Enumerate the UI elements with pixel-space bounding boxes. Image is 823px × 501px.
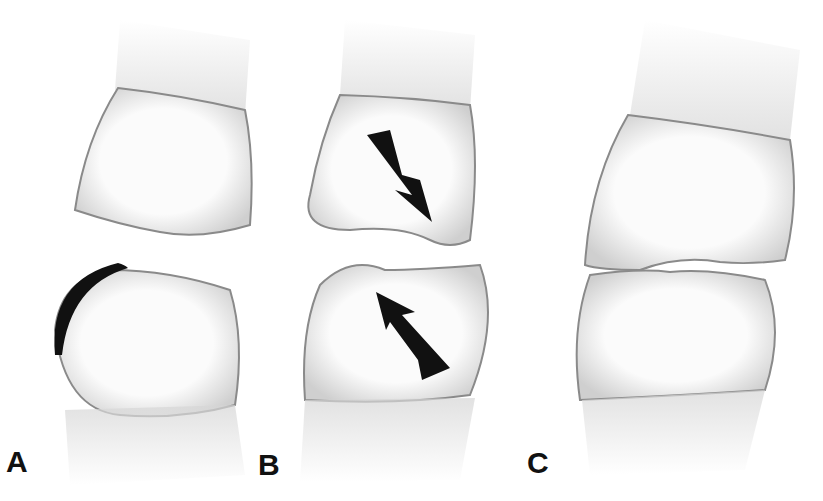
upper-tooth-crown [308,95,475,245]
lower-tooth-crown [577,271,775,400]
panel-label-b: B [258,448,280,482]
panel-c [577,20,800,475]
panel-a [54,20,251,485]
upper-tooth-crown [75,88,252,235]
panel-label-a: A [6,445,28,479]
lower-tooth-root [582,390,765,475]
lower-tooth-root [300,398,475,482]
lower-tooth-root [65,405,245,485]
illustration [0,0,823,501]
upper-tooth-crown [585,115,794,270]
panel-label-c: C [527,446,549,480]
panel-b [300,20,488,482]
lower-tooth-crown [304,265,488,402]
